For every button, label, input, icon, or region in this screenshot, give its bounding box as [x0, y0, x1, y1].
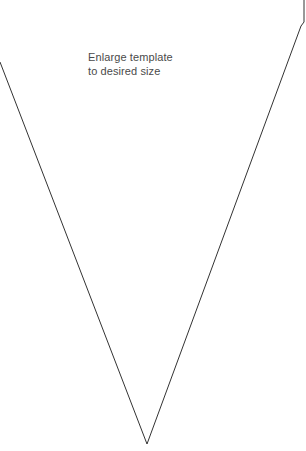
instruction-line-2: to desired size — [88, 64, 173, 78]
instruction-line-1: Enlarge template — [88, 50, 173, 64]
instruction-text: Enlarge template to desired size — [88, 50, 173, 78]
